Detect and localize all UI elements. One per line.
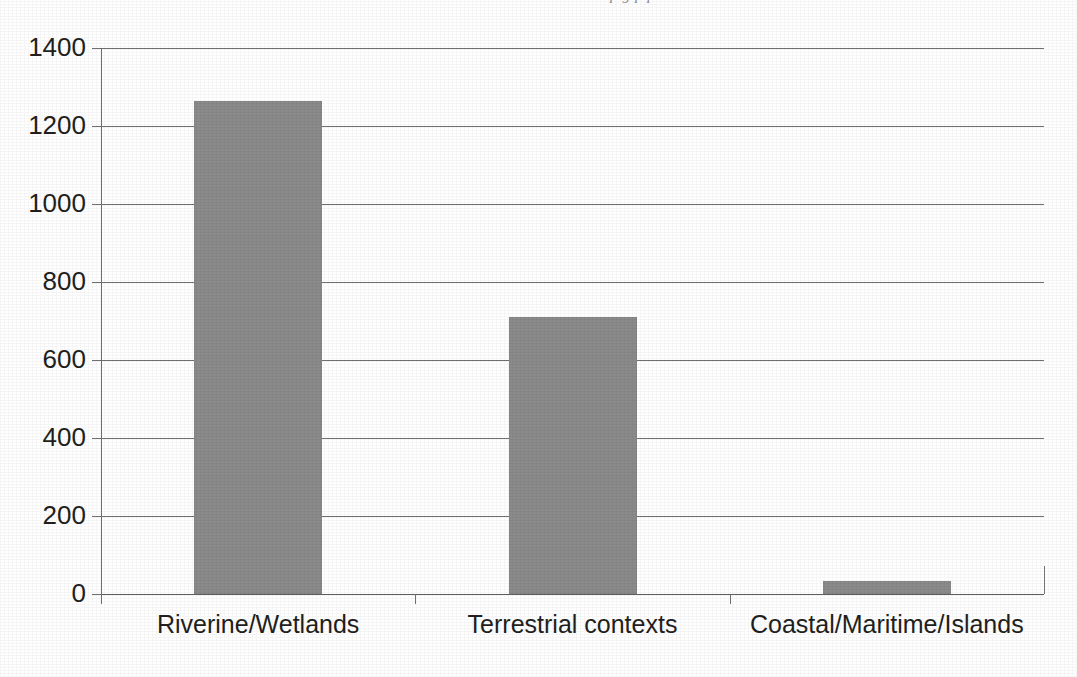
bar-chart: 0200400600800100012001400 Riverine/Wetla… [0, 0, 1077, 677]
y-tick-400 [92, 438, 101, 439]
bar-0[interactable] [194, 101, 322, 594]
gridline-1400 [101, 48, 1044, 49]
y-tick-label-0: 0 [0, 580, 86, 606]
y-tick-label-800: 800 [0, 268, 86, 294]
x-category-label-2: Coastal/Maritime/Islands [730, 611, 1044, 639]
y-axis-line [101, 48, 102, 594]
y-tick-0 [92, 594, 101, 595]
x-category-label-1: Terrestrial contexts [415, 611, 729, 639]
y-tick-label-600: 600 [0, 346, 86, 372]
x-category-label-0: Riverine/Wetlands [101, 611, 415, 639]
y-tick-600 [92, 360, 101, 361]
y-tick-label-1200: 1200 [0, 112, 86, 138]
y-tick-label-1400: 1400 [0, 34, 86, 60]
y-tick-1000 [92, 204, 101, 205]
gridline-0 [101, 594, 1044, 595]
x-tick-1 [415, 594, 416, 604]
y-tick-label-400: 400 [0, 424, 86, 450]
y-tick-label-1000: 1000 [0, 190, 86, 216]
bar-2[interactable] [823, 581, 951, 594]
x-tick-0 [101, 594, 102, 604]
bar-1[interactable] [509, 317, 637, 594]
y-tick-800 [92, 282, 101, 283]
right-axis-stub [1044, 566, 1045, 594]
y-tick-1200 [92, 126, 101, 127]
x-tick-2 [730, 594, 731, 604]
y-tick-1400 [92, 48, 101, 49]
y-tick-200 [92, 516, 101, 517]
y-tick-label-200: 200 [0, 502, 86, 528]
